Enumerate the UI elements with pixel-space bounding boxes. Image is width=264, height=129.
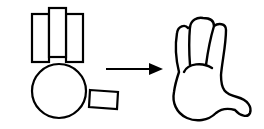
- arrow-icon: [106, 63, 163, 75]
- left-finger-rect: [32, 14, 49, 62]
- finger-line-1: [189, 27, 190, 65]
- middle-finger-rect: [49, 8, 66, 57]
- primitive-shapes-group: [32, 8, 118, 118]
- right-finger-rect: [66, 14, 83, 62]
- hand-shape: [174, 18, 251, 120]
- palm-circle: [32, 64, 86, 118]
- thumb-rect: [89, 90, 118, 109]
- diagram-canvas: [0, 0, 264, 129]
